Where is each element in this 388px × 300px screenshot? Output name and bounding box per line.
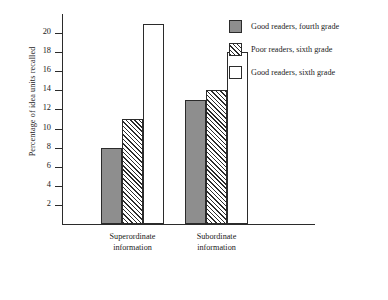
y-axis-tick-label: 16 [30,66,51,74]
legend-label: Good readers, fourth grade [251,22,339,31]
y-axis-tick-label: 10 [30,124,51,132]
y-axis-tick [55,205,63,206]
y-axis-tick [55,148,63,149]
y-axis-tick-label: 2 [30,200,51,208]
y-axis-tick [55,33,63,34]
y-axis-tick [55,71,63,72]
y-axis-tick-label: 18 [30,47,51,55]
y-axis-tick [55,167,63,168]
legend-item: Poor readers, sixth grade [229,41,339,59]
chart-legend: Good readers, fourth gradePoor readers, … [229,18,339,87]
legend-item: Good readers, fourth grade [229,18,339,36]
y-axis-tick [55,52,63,53]
legend-swatch [229,66,242,79]
y-axis-tick [55,90,63,91]
y-axis-tick-label: 8 [30,143,51,151]
y-axis-tick [55,186,63,187]
legend-item: Good readers, sixth grade [229,64,339,82]
y-axis-tick-label: 6 [30,162,51,170]
bar [143,24,164,224]
legend-label: Good readers, sixth grade [251,68,335,77]
bar [185,100,206,224]
legend-swatch [229,20,242,33]
y-axis-tick [55,109,63,110]
legend-label: Poor readers, sixth grade [251,45,332,54]
bar [206,90,227,224]
x-axis-line [62,224,315,225]
y-axis-tick-label: 20 [30,28,51,36]
bar [122,119,143,224]
bar [101,148,122,224]
y-axis-tick-label: 4 [30,181,51,189]
y-axis-tick-label: 12 [30,104,51,112]
y-axis-tick [55,129,63,130]
category-label-line: information [157,243,277,254]
legend-swatch [229,43,242,56]
y-axis-tick-label: 14 [30,85,51,93]
category-label-line: Subordinate [157,232,277,243]
bar-chart-figure: Percentage of idea units recalled 246810… [0,0,388,300]
x-axis-category-label: Subordinateinformation [157,232,277,253]
